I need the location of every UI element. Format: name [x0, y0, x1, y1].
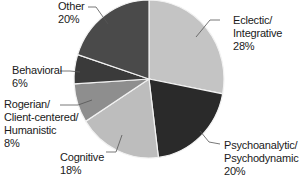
pie-slice: [149, 0, 224, 94]
label-text: Psychoanalytic/: [224, 139, 298, 152]
label-text: Other: [58, 0, 85, 13]
label-eclectic: Eclectic/ Integrative 28%: [233, 14, 282, 53]
pie-slices: [74, 0, 224, 158]
label-text: Psychodynamic: [224, 152, 298, 165]
label-text: Eclectic/: [233, 14, 282, 27]
label-other: Other 20%: [58, 0, 85, 26]
label-text: Humanistic: [4, 124, 78, 137]
label-text: Cognitive: [60, 151, 104, 164]
label-text: Behavioral: [12, 64, 62, 77]
label-pct: 18%: [60, 164, 104, 177]
label-pct: 6%: [12, 77, 62, 90]
label-pct: 28%: [233, 40, 282, 53]
label-text: Rogerian/: [4, 98, 78, 111]
label-psychoanalytic: Psychoanalytic/ Psychodynamic 20%: [224, 139, 298, 178]
label-text: Client-centered/: [4, 111, 78, 124]
label-pct: 20%: [224, 165, 298, 178]
label-cognitive: Cognitive 18%: [60, 151, 104, 177]
label-rogerian: Rogerian/ Client-centered/ Humanistic 8%: [4, 98, 78, 150]
label-pct: 8%: [4, 137, 78, 150]
label-behavioral: Behavioral 6%: [12, 64, 62, 90]
label-text: Integrative: [233, 27, 282, 40]
label-pct: 20%: [58, 13, 85, 26]
